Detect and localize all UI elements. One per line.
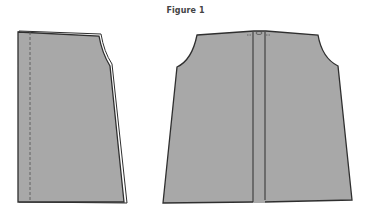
right-pattern-piece (163, 31, 352, 203)
left-pattern-piece (18, 31, 127, 203)
figure-illustration (0, 0, 371, 215)
center-placket (253, 32, 265, 203)
